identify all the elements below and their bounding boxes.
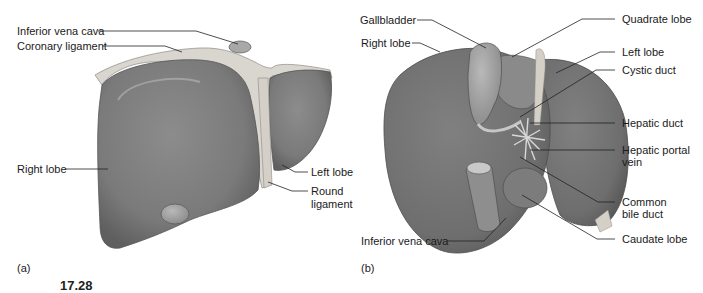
label-a-coronary-ligament: Coronary ligament xyxy=(17,40,107,52)
ivc-shape-a xyxy=(229,41,251,53)
label-b-quadrate-lobe: Quadrate lobe xyxy=(622,13,692,25)
panel-a-liver xyxy=(95,41,332,248)
label-b-common-bile-duct-line2: bile duct xyxy=(622,208,663,220)
label-a-inferior-vena-cava: Inferior vena cava xyxy=(17,25,104,37)
left-lobe-shape-b xyxy=(540,59,629,225)
label-a-left-lobe: Left lobe xyxy=(311,166,353,178)
label-b-hepatic-portal-vein-line2: vein xyxy=(622,156,642,168)
panel-b-liver xyxy=(384,43,628,253)
panel-a-letter: (a) xyxy=(17,262,30,274)
label-b-hepatic-portal-vein-line1: Hepatic portal xyxy=(622,144,690,156)
gallbladder-tip-a xyxy=(161,204,189,224)
caudate-lobe-shape xyxy=(503,168,547,208)
label-b-inferior-vena-cava: Inferior vena cava xyxy=(361,235,448,247)
label-b-common-bile-duct-line1: Common xyxy=(622,196,667,208)
label-b-right-lobe: Right lobe xyxy=(361,37,411,49)
label-b-gallbladder: Gallbladder xyxy=(360,14,416,26)
label-a-round-ligament-line1: Round xyxy=(311,185,343,197)
panel-b-letter: (b) xyxy=(361,262,374,274)
figure-number: 17.28 xyxy=(60,278,93,293)
label-b-hepatic-duct: Hepatic duct xyxy=(622,117,683,129)
label-a-round-ligament-line2: ligament xyxy=(311,198,353,210)
label-b-cystic-duct: Cystic duct xyxy=(622,64,676,76)
left-lobe-shape-a xyxy=(269,70,331,170)
label-a-right-lobe: Right lobe xyxy=(17,163,67,175)
label-b-caudate-lobe: Caudate lobe xyxy=(622,233,687,245)
label-b-left-lobe: Left lobe xyxy=(622,46,664,58)
